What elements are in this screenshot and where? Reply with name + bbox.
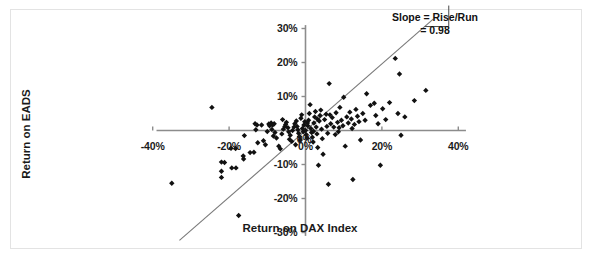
data-point [253,127,258,132]
chart-points-layer [0,0,594,260]
data-point [319,126,324,131]
data-point [316,162,321,167]
y-axis-title: Return on EADS [20,64,32,204]
data-point [326,81,331,86]
data-point [387,100,392,105]
data-point [320,152,325,157]
scatter-chart: -40%-20%0%20%40%-30%-20%-10%0%10%20%30% … [0,0,594,260]
data-point [362,118,367,123]
data-point [236,213,241,218]
data-point [353,107,358,112]
slope-annotation-line1: Slope = Rise/Run [368,11,502,24]
data-point [355,114,360,119]
data-point [255,140,260,145]
data-point [397,71,402,76]
x-tick-label: -40% [133,140,173,152]
y-tick-label: 30% [252,22,298,34]
data-point [265,129,270,134]
y-tick-label: -20% [252,192,298,204]
data-point [280,117,285,122]
data-point [259,122,264,127]
x-tick-label: 20% [362,140,402,152]
data-point [356,119,361,124]
slope-annotation: Slope = Rise/Run = 0.98 [368,11,502,37]
x-tick-label: -20% [209,140,249,152]
screenshot-root: -40%-20%0%20%40%-30%-20%-10%0%10%20%30% … [0,0,594,260]
data-point [322,117,327,122]
data-point [360,111,365,116]
data-point [242,133,247,138]
data-point [219,175,224,180]
x-tick-label: 40% [438,140,478,152]
data-point [350,177,355,182]
data-point [402,114,407,119]
data-point [325,131,330,136]
data-point [423,88,428,93]
data-point [412,98,417,103]
data-point [219,169,224,174]
data-point [233,165,238,170]
y-tick-label: -10% [252,158,298,170]
data-point [337,105,342,110]
data-point [395,111,400,116]
data-point [378,162,383,167]
slope-annotation-line2: = 0.98 [368,24,502,37]
origin-tick-label: 0% [292,133,312,145]
data-point [347,109,352,114]
data-point [307,102,312,107]
data-point [251,150,256,155]
data-point [333,110,338,115]
data-point [326,182,331,187]
data-point [209,105,214,110]
data-point [279,131,284,136]
data-point [373,113,378,118]
data-point [383,117,388,122]
x-axis-title: Return on DAX Index [200,222,400,234]
data-point [318,107,323,112]
data-point [341,94,346,99]
data-point [349,116,354,121]
data-point [346,120,351,125]
data-point [169,181,174,186]
y-tick-label: 10% [252,90,298,102]
data-point [375,121,380,126]
data-point [344,114,349,119]
data-point [343,143,348,148]
data-point [380,106,385,111]
data-point [364,91,369,96]
data-point [313,109,318,114]
data-point [324,124,329,129]
data-point [307,111,312,116]
data-point [222,160,227,165]
data-point [393,56,398,61]
y-tick-label: 20% [252,56,298,68]
data-point [398,133,403,138]
